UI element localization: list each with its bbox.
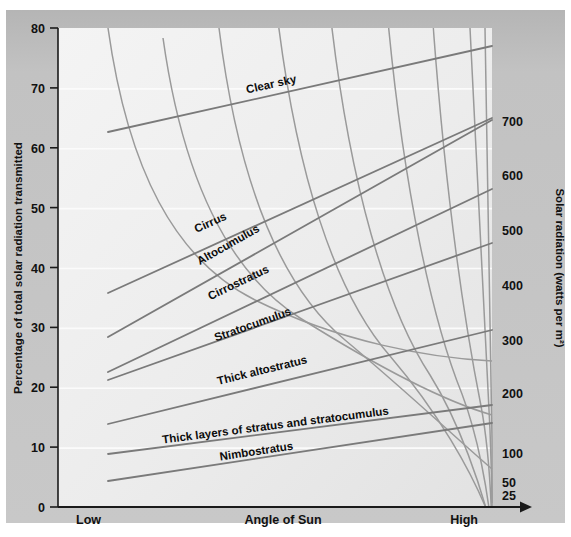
watts-700: 700 [502,115,523,129]
watts-100: 100 [502,447,523,461]
watts-300: 300 [502,334,523,348]
x-axis-high-label: High [450,513,478,527]
watts-50: 50 [502,476,516,490]
figure-container: 80 70 60 50 40 30 20 10 0 Percentage of … [0,0,571,537]
watts-600: 600 [502,169,523,183]
watts-200: 200 [502,387,523,401]
watts-25: 25 [502,489,516,503]
solar-radiation-chart: 80 70 60 50 40 30 20 10 0 Percentage of … [0,0,571,537]
x-axis-title: Angle of Sun [244,513,321,527]
ytick-80: 80 [31,22,45,36]
ytick-50: 50 [31,202,45,216]
y-axis-title: Percentage of total solar radiation tran… [12,142,24,394]
ytick-30: 30 [31,321,45,335]
ytick-60: 60 [31,142,45,156]
watts-400: 400 [502,279,523,293]
x-axis-low-label: Low [76,513,101,527]
ytick-10: 10 [31,441,45,455]
ytick-20: 20 [31,381,45,395]
ytick-0: 0 [38,501,45,515]
y2-axis-title: Solar radiation (watts per m²) [554,188,566,347]
ytick-40: 40 [31,262,45,276]
ytick-70: 70 [31,82,45,96]
watts-500: 500 [502,224,523,238]
plot-area-background [58,28,492,507]
